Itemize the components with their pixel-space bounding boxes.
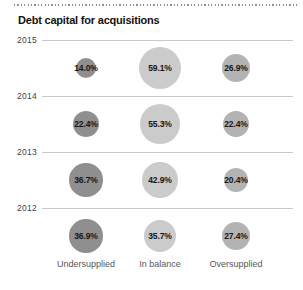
column-label: Undersupplied [57,259,115,269]
year-label: 2015 [17,35,37,45]
top-dotted-rule [14,4,300,6]
year-row: 2013 [17,147,293,157]
bubble-value: 55.3% [148,119,172,129]
bubble: 35.7% [144,220,177,253]
year-gridline [42,152,293,153]
bubble-value: 35.7% [148,231,172,241]
year-row: 2012 [17,203,293,213]
bubble-value: 36.7% [74,175,98,185]
bubble: 42.9% [142,162,178,198]
chart-title: Debt capital for acquisitions [18,14,160,26]
bubble: 36.7% [69,163,102,196]
bubble: 20.4% [224,168,249,193]
bubble: 59.1% [139,47,181,89]
bubble: 26.9% [222,54,251,83]
year-row: 2014 [17,91,293,101]
bubble-value: 36.9% [74,231,98,241]
bubble-value: 20.4% [224,175,248,185]
bubble: 36.9% [69,219,102,252]
bubble-value: 14.0% [74,63,98,73]
column-label: In balance [139,259,181,269]
bubble-value: 26.9% [224,63,248,73]
year-gridline [42,208,293,209]
bubble: 22.4% [223,111,249,137]
year-label: 2012 [17,203,37,213]
bubble: 55.3% [140,104,181,145]
chart-container: Debt capital for acquisitions 201514.0%5… [0,0,303,290]
year-gridline [42,40,293,41]
bubble-value: 27.4% [224,231,248,241]
bubble-value: 59.1% [148,63,172,73]
bubble-value: 22.4% [224,119,248,129]
year-gridline [42,96,293,97]
bubble-value: 22.4% [74,119,98,129]
bubble: 27.4% [222,222,251,251]
year-row: 2015 [17,35,293,45]
column-label: Oversupplied [209,259,262,269]
bubble: 22.4% [73,111,99,137]
bubble: 14.0% [76,58,97,79]
bubble-value: 42.9% [148,175,172,185]
year-label: 2014 [17,91,37,101]
year-label: 2013 [17,147,37,157]
